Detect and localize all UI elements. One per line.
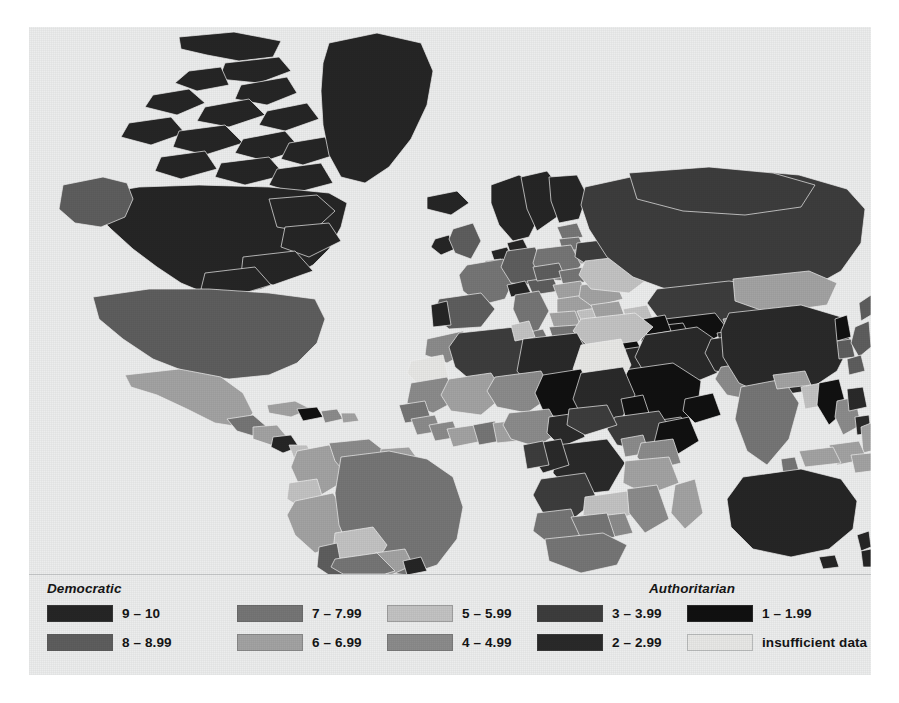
map-legend: Democratic Authoritarian 9 – 108 – 8.997…: [29, 575, 871, 675]
legend-label: 4 – 4.99: [462, 635, 512, 650]
legend-label: insufficient data: [762, 635, 867, 650]
legend-item[interactable]: 5 – 5.99: [387, 603, 512, 623]
legend-label: 3 – 3.99: [612, 606, 662, 621]
legend-item[interactable]: 1 – 1.99: [687, 603, 812, 623]
legend-swatch: [387, 634, 453, 651]
world-map-svg: .c { stroke:#f4f4f4; stroke-width:0.7; }…: [29, 27, 871, 574]
legend-item[interactable]: 3 – 3.99: [537, 603, 662, 623]
legend-item[interactable]: 2 – 2.99: [537, 632, 662, 652]
legend-swatch: [47, 605, 113, 622]
legend-heading-democratic: Democratic: [47, 581, 122, 596]
legend-item[interactable]: 7 – 7.99: [237, 603, 362, 623]
legend-item[interactable]: 9 – 10: [47, 603, 160, 623]
legend-item[interactable]: insufficient data: [687, 632, 867, 652]
legend-swatch: [537, 634, 603, 651]
legend-label: 9 – 10: [122, 606, 160, 621]
legend-swatch: [687, 605, 753, 622]
legend-swatch: [687, 634, 753, 651]
legend-swatch: [387, 605, 453, 622]
legend-item[interactable]: 4 – 4.99: [387, 632, 512, 652]
legend-item[interactable]: 6 – 6.99: [237, 632, 362, 652]
legend-heading-authoritarian: Authoritarian: [649, 581, 735, 596]
legend-item[interactable]: 8 – 8.99: [47, 632, 172, 652]
figure-panel: .c { stroke:#f4f4f4; stroke-width:0.7; }…: [29, 27, 871, 675]
world-map[interactable]: .c { stroke:#f4f4f4; stroke-width:0.7; }…: [29, 27, 871, 574]
legend-label: 6 – 6.99: [312, 635, 362, 650]
legend-swatch: [237, 634, 303, 651]
legend-label: 5 – 5.99: [462, 606, 512, 621]
legend-swatch: [237, 605, 303, 622]
legend-label: 2 – 2.99: [612, 635, 662, 650]
legend-label: 1 – 1.99: [762, 606, 812, 621]
legend-swatch: [47, 634, 113, 651]
legend-label: 7 – 7.99: [312, 606, 362, 621]
legend-label: 8 – 8.99: [122, 635, 172, 650]
legend-swatch: [537, 605, 603, 622]
